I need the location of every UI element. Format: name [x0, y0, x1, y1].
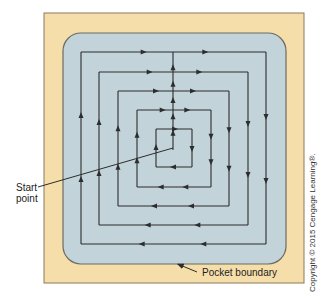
pocket-boundary-label: Pocket boundary — [202, 267, 277, 278]
start-point-label: Start point — [16, 182, 38, 204]
pocket-region — [63, 33, 286, 264]
start-label-line2: point — [16, 193, 38, 204]
start-label-line1: Start — [16, 182, 38, 193]
copyright-notice: Copyright © 2015 Cengage Learning®. — [308, 153, 317, 292]
spiral-toolpath-diagram — [0, 0, 324, 298]
